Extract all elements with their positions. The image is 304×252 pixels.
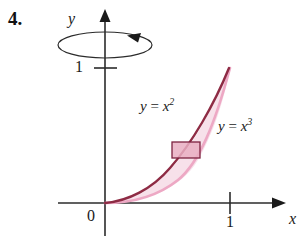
curve-label-x-cubed-lhs: y bbox=[218, 118, 225, 134]
curve-label-x-cubed-equals: = bbox=[225, 118, 241, 134]
x-axis-label: x bbox=[289, 210, 296, 228]
x-axis-tick-label-1: 1 bbox=[226, 213, 234, 231]
curve-label-x-cubed-exponent: 3 bbox=[247, 116, 252, 127]
representative-rectangle bbox=[172, 142, 200, 158]
curve-label-x-squared: y = x2 bbox=[140, 98, 174, 115]
rotation-arrowhead-icon bbox=[127, 33, 141, 43]
x-axis-arrowhead bbox=[272, 198, 286, 209]
figure-page: 4. y x 0 1 1 y = x2 bbox=[0, 0, 304, 252]
y-axis-label: y bbox=[68, 10, 75, 28]
origin-label: 0 bbox=[87, 207, 95, 225]
y-axis-tick-label-1: 1 bbox=[75, 58, 83, 76]
curve-label-x-squared-exponent: 2 bbox=[169, 96, 174, 107]
curve-label-x-squared-lhs: y bbox=[140, 98, 147, 114]
y-axis-arrowhead bbox=[100, 9, 111, 22]
curve-label-x-squared-equals: = bbox=[147, 98, 163, 114]
region-between-curves bbox=[105, 68, 230, 203]
curve-label-x-cubed: y = x3 bbox=[218, 118, 252, 135]
graph-canvas bbox=[0, 0, 304, 252]
